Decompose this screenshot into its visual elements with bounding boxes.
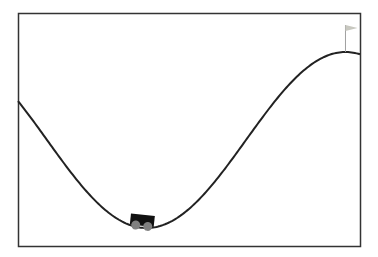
- viewport-frame: [19, 14, 361, 247]
- game-canvas: [0, 0, 378, 257]
